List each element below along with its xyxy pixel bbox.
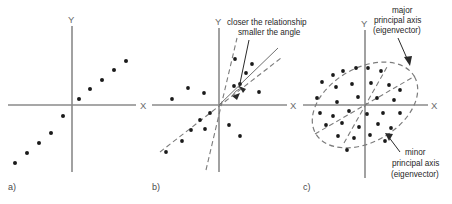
data-point: [198, 118, 202, 122]
data-point: [369, 81, 373, 85]
data-point: [124, 59, 128, 63]
data-point: [398, 111, 402, 115]
panel-a-x-axis-label: X: [140, 100, 147, 111]
data-point: [170, 97, 174, 101]
data-point: [315, 96, 319, 100]
panel-c-major-arrowhead: [404, 56, 412, 66]
data-point: [233, 57, 237, 61]
data-point: [331, 114, 335, 118]
data-point: [354, 66, 358, 70]
data-point: [368, 133, 372, 137]
data-point: [383, 139, 387, 143]
data-point: [61, 114, 65, 118]
data-point: [352, 136, 356, 140]
data-point: [37, 141, 41, 145]
data-point: [13, 161, 17, 165]
panel-b-y-axis-label: Y: [215, 16, 222, 27]
data-point: [356, 95, 360, 99]
data-point: [180, 139, 184, 143]
panel-c-label: c): [303, 182, 311, 192]
data-point: [392, 98, 396, 102]
panel-c: X Y: [297, 6, 439, 192]
data-point: [49, 131, 53, 135]
data-point: [208, 111, 212, 115]
panel-b-label: b): [152, 182, 160, 192]
data-point: [250, 62, 254, 66]
data-point: [381, 111, 385, 115]
panel-c-minor-label-line3: (eigenvector): [391, 170, 439, 179]
panel-c-x-axis-label: X: [431, 100, 438, 111]
data-point: [189, 128, 193, 132]
data-point: [257, 90, 261, 94]
data-point: [375, 96, 379, 100]
data-point: [238, 134, 242, 138]
panel-a-points: [13, 59, 128, 165]
data-point: [350, 82, 354, 86]
figure-canvas: X Y a) X Y: [0, 0, 452, 204]
panel-c-major-label-line1: major: [392, 6, 413, 15]
panel-b-annotation-line1: closer the relationship: [227, 18, 307, 27]
panel-c-major-label-line2: principal axis: [374, 16, 421, 25]
data-point: [112, 68, 116, 72]
data-point: [379, 69, 383, 73]
data-point: [232, 84, 236, 88]
pca-explanation-figure: X Y a) X Y: [0, 0, 452, 204]
panel-c-y-axis-label: Y: [361, 18, 368, 29]
panel-b-annotation-line2: smaller the angle: [238, 28, 301, 37]
data-point: [88, 87, 92, 91]
panel-a-y-axis-label: Y: [68, 14, 75, 25]
data-point: [335, 100, 339, 104]
data-point: [25, 151, 29, 155]
data-point: [357, 125, 361, 129]
data-point: [227, 123, 231, 127]
data-point: [387, 83, 391, 87]
data-point: [336, 134, 340, 138]
data-point: [244, 71, 248, 75]
panel-c-major-label-line3: (eigenvector): [373, 26, 421, 35]
data-point: [100, 78, 104, 82]
panel-b-middle-axis-line: [219, 48, 278, 105]
data-point: [318, 111, 322, 115]
data-point: [320, 80, 324, 84]
data-point: [398, 88, 402, 92]
data-point: [324, 123, 328, 127]
data-point: [164, 150, 168, 154]
data-point: [186, 86, 190, 90]
panel-c-minor-label-line1: minor: [405, 148, 426, 157]
data-point: [345, 148, 349, 152]
panel-a-label: a): [8, 182, 16, 192]
data-point: [202, 91, 206, 95]
data-point: [347, 109, 351, 113]
data-point: [376, 122, 380, 126]
panel-c-minor-label-line2: principal axis: [392, 159, 439, 168]
panel-b-x-axis-label: X: [290, 100, 297, 111]
panel-a: X Y a): [8, 14, 147, 192]
panel-b: X Y: [152, 16, 307, 192]
data-point: [77, 97, 81, 101]
data-point: [203, 127, 207, 131]
data-point: [365, 112, 369, 116]
data-point: [389, 126, 393, 130]
data-point: [331, 73, 335, 77]
data-point: [334, 85, 338, 89]
data-point: [341, 69, 345, 73]
data-point: [366, 66, 370, 70]
data-point: [340, 121, 344, 125]
